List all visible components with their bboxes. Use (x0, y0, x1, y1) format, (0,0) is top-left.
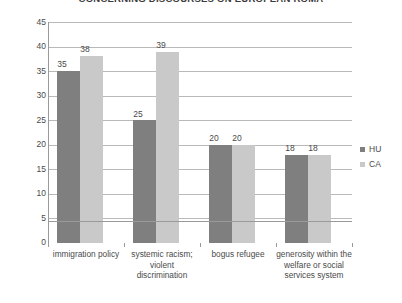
y-axis-tick-20: 20 (22, 140, 46, 149)
bar-hu-systemic-racism[interactable] (133, 120, 156, 243)
x-category-line: violent (120, 260, 204, 271)
x-axis-tick-2 (200, 243, 201, 247)
legend-item-hu[interactable]: HU (360, 142, 402, 157)
bar-label-ca-systemic-racism: 39 (145, 41, 177, 50)
y-axis-tick-45: 45 (22, 18, 46, 27)
y-axis-tick-5: 5 (22, 214, 46, 223)
y-axis-tick-15: 15 (22, 165, 46, 174)
legend-label-ca: CA (369, 160, 381, 169)
chart-title: CONCERNING DISCOURSES ON EUROPEAN ROMA (0, 0, 402, 4)
x-category-label-generosity-welfare: generosity within the welfare or social … (272, 249, 356, 281)
x-category-line: discrimination (120, 270, 204, 281)
x-category-line: services system (272, 270, 356, 281)
x-axis-tick-3 (276, 243, 277, 247)
bar-ca-bogus-refugee[interactable] (232, 145, 255, 243)
y-axis-tick-35: 35 (22, 67, 46, 76)
bar-hu-generosity-welfare[interactable] (285, 155, 308, 243)
y-axis-tick-25: 25 (22, 116, 46, 125)
legend-swatch-icon-hu (360, 147, 365, 152)
bar-chart: CONCERNING DISCOURSES ON EUROPEAN ROMA 4… (0, 0, 402, 303)
bar-hu-immigration-policy[interactable] (57, 71, 80, 243)
x-category-label-immigration-policy: immigration policy (44, 249, 128, 260)
legend: HU CA (360, 142, 402, 172)
legend-item-ca[interactable]: CA (360, 157, 402, 172)
x-category-label-systemic-racism: systemic racism; violent discrimination (120, 249, 204, 281)
bar-label-ca-immigration-policy: 38 (69, 45, 101, 54)
y-axis-tick-10: 10 (22, 189, 46, 198)
y-axis-tick-40: 40 (22, 42, 46, 51)
x-category-line: welfare or social (272, 260, 356, 271)
x-axis-tick-1 (124, 243, 125, 247)
bar-label-hu-immigration-policy: 35 (46, 60, 78, 69)
bar-hu-bogus-refugee[interactable] (209, 145, 232, 243)
legend-label-hu: HU (369, 145, 381, 154)
bar-ca-immigration-policy[interactable] (80, 56, 103, 243)
x-axis-tick-0 (48, 243, 49, 247)
bar-label-ca-bogus-refugee: 20 (221, 134, 253, 143)
gridline-45 (48, 22, 352, 23)
x-category-line: bogus refugee (196, 249, 280, 260)
bar-ca-systemic-racism[interactable] (156, 52, 179, 244)
x-axis-line (48, 221, 352, 222)
bar-ca-generosity-welfare[interactable] (308, 155, 331, 243)
x-category-label-bogus-refugee: bogus refugee (196, 249, 280, 260)
legend-swatch-icon-ca (360, 162, 365, 167)
y-axis-tick-30: 30 (22, 91, 46, 100)
y-axis-line (48, 22, 49, 243)
y-axis-tick-0: 0 (22, 238, 46, 247)
x-category-line: immigration policy (44, 249, 128, 260)
bar-label-ca-generosity-welfare: 18 (297, 144, 329, 153)
plot-area (48, 22, 352, 243)
bar-label-hu-systemic-racism: 25 (122, 110, 154, 119)
x-axis-tick-4 (352, 243, 353, 247)
x-category-line: generosity within the (272, 249, 356, 260)
x-category-line: systemic racism; (120, 249, 204, 260)
